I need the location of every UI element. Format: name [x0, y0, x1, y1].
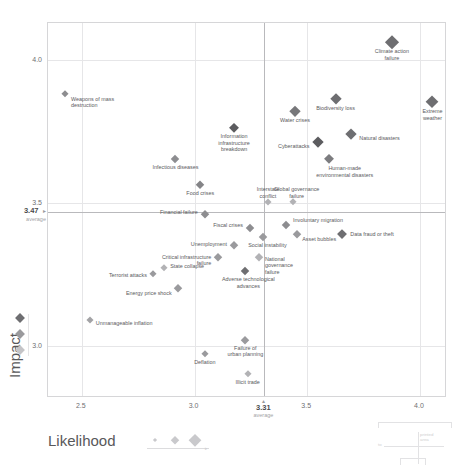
global-risks-landscape-chart: Impact Likelihood 2.53.03.54.04.03.53.03… — [0, 0, 459, 476]
risk-label: Fiscal crises — [213, 222, 243, 229]
print-area-artifact: printed area to — [378, 420, 454, 472]
size-legend-arrow-icon: ▸ — [205, 445, 208, 451]
risk-label: State collapse — [170, 263, 204, 270]
size-legend-swatch — [171, 436, 179, 444]
size-legend-bar — [147, 448, 209, 449]
risk-label: Extreme weather — [419, 108, 446, 122]
impact-average-arrow-icon: ▸ — [43, 208, 46, 214]
color-legend — [12, 312, 34, 358]
likelihood-average-line — [264, 23, 265, 396]
risk-label: Terrorist attacks — [109, 272, 147, 279]
risk-label: Infectious diseases — [153, 164, 199, 171]
size-legend-swatch — [189, 434, 201, 446]
risk-label: National governance failure — [265, 256, 293, 276]
color-legend-swatch — [15, 345, 25, 355]
color-legend-swatch — [15, 313, 25, 323]
risk-label: Human-made environmental disasters — [316, 165, 373, 179]
x-axis-title: Likelihood — [48, 432, 116, 449]
risk-label: Food crises — [186, 190, 214, 197]
size-legend-swatch — [153, 438, 157, 442]
risk-label: Information infrastructure breakdown — [218, 133, 249, 153]
x-tick-label-3.0: 3.0 — [189, 402, 199, 409]
likelihood-average-value: 3.31 — [253, 404, 273, 412]
risk-label: Biodiversity loss — [316, 105, 355, 112]
risk-label: Financial failure — [160, 209, 198, 216]
gridline-x-2.5 — [82, 23, 83, 396]
risk-label: Unemployment — [191, 241, 227, 248]
risk-label: Failure of urban planning — [228, 345, 264, 359]
risk-label: Data fraud or theft — [350, 231, 393, 238]
risk-label: Natural disasters — [359, 135, 399, 142]
impact-average-line — [48, 212, 445, 213]
risk-label: Global governance failure — [274, 186, 319, 200]
artifact-label-printed-area: printed area — [420, 432, 433, 443]
x-tick-label-4.0: 4.0 — [414, 402, 424, 409]
color-legend-swatch — [15, 329, 25, 339]
impact-average-annotation: 3.47 ▸average — [2, 200, 46, 223]
risk-label: Illicit trade — [235, 379, 259, 386]
risk-label: Involuntary migration — [293, 217, 343, 224]
impact-average-value: 3.47 — [24, 206, 39, 215]
likelihood-average-sublabel: average — [253, 412, 273, 418]
gridline-y-3.5 — [48, 203, 445, 204]
risk-label: Climate action failure — [375, 48, 409, 62]
risk-label: Adverse technological advances — [222, 276, 275, 290]
risk-label: Unmanageable inflation — [96, 320, 153, 327]
gridline-x-3.5 — [307, 23, 308, 396]
y-tick-label-4.0: 4.0 — [16, 56, 42, 63]
gridline-x-4.0 — [420, 23, 421, 396]
impact-average-sublabel: average — [2, 216, 46, 222]
x-tick-label-2.5: 2.5 — [76, 402, 86, 409]
risk-label: Asset bubbles — [302, 236, 336, 243]
risk-label: Weapons of mass destruction — [71, 96, 114, 110]
risk-label: Cyberattacks — [278, 143, 309, 150]
likelihood-average-annotation: ▴3.31average — [253, 398, 273, 418]
x-tick-label-3.5: 3.5 — [301, 402, 311, 409]
risk-label: Deflation — [194, 359, 215, 366]
risk-label: Energy price shock — [126, 290, 172, 297]
risk-label: Water crises — [280, 117, 310, 124]
risk-label: Social instability — [248, 242, 286, 249]
artifact-label-left: to — [378, 442, 382, 447]
color-legend-bar — [28, 314, 29, 356]
